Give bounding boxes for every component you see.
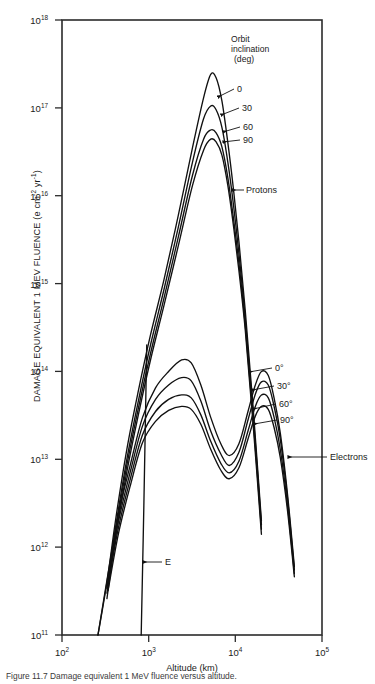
- electron-label-30: 30°: [277, 381, 291, 391]
- x-tick-mantissa: 10: [315, 647, 326, 658]
- curve-electrons-90-deg: [108, 406, 294, 591]
- electron-label-0: 0°: [275, 363, 284, 373]
- figure-caption: Figure 11.7 Damage equivalent 1 MeV flue…: [6, 671, 370, 681]
- proton-label-90: 90: [243, 135, 253, 145]
- data-curves: [98, 73, 294, 635]
- e-marker-label: E: [165, 557, 171, 567]
- y-tick-exponent: 12: [41, 541, 49, 548]
- electrons-annotation: Electrons: [288, 452, 368, 462]
- svg-text:1018: 1018: [30, 14, 48, 26]
- svg-text:103: 103: [142, 646, 157, 658]
- x-tick-exponent: 5: [326, 646, 330, 653]
- x-tick-mantissa: 10: [142, 647, 153, 658]
- electron-label-60: 60°: [279, 399, 293, 409]
- x-axis-ticks: [62, 635, 322, 642]
- y-tick-exponent: 13: [41, 453, 49, 460]
- figure-container: 1018 1017 1016 1015 1014 1013 1012 1011: [0, 0, 375, 684]
- svg-text:104: 104: [228, 646, 243, 658]
- y-tick-mantissa: 10: [30, 454, 41, 465]
- protons-label: Protons: [246, 185, 278, 195]
- legend-line-2: inclination: [231, 44, 269, 54]
- y-axis-title-exp2: -1: [30, 173, 37, 179]
- y-tick-exponent: 15: [41, 278, 49, 285]
- proton-label-30: 30: [242, 103, 252, 113]
- svg-text:1012: 1012: [30, 541, 48, 553]
- y-axis-title-mid: yr: [32, 179, 42, 190]
- y-tick-mantissa: 10: [31, 630, 42, 641]
- svg-text:105: 105: [315, 646, 330, 658]
- y-axis-ticks: [55, 20, 62, 635]
- y-tick-mantissa: 10: [30, 103, 41, 114]
- e-marker-annotation: E: [143, 557, 171, 567]
- y-tick-mantissa: 10: [30, 542, 41, 553]
- chart-svg: 1018 1017 1016 1015 1014 1013 1012 1011: [0, 0, 375, 684]
- proton-label-0: 0: [237, 84, 242, 94]
- y-axis-title: DAMAGE EQUIVALENT 1 MEV FLUENCE (e cm-2 …: [30, 156, 42, 416]
- y-tick-exponent: 18: [41, 14, 49, 21]
- curve-protons-90-deg: [107, 139, 261, 599]
- x-tick-mantissa: 10: [55, 647, 66, 658]
- proton-label-60: 60: [243, 122, 253, 132]
- protons-annotation: Protons: [232, 185, 278, 195]
- y-tick-mantissa: 10: [30, 15, 41, 26]
- svg-text:1011: 1011: [31, 629, 49, 641]
- x-tick-exponent: 4: [239, 646, 243, 653]
- legend-line-1: Orbit: [231, 34, 250, 44]
- y-tick-exponent: 16: [41, 190, 49, 197]
- svg-text:1017: 1017: [30, 102, 48, 114]
- svg-text:1013: 1013: [30, 453, 48, 465]
- x-tick-exponent: 3: [152, 646, 156, 653]
- x-tick-mantissa: 10: [228, 647, 239, 658]
- curve-protons-0-deg: [98, 73, 261, 635]
- y-axis-title-end: ): [32, 170, 42, 173]
- y-tick-exponent: 17: [41, 102, 49, 109]
- svg-text:102: 102: [55, 646, 70, 658]
- electron-label-90: 90°: [280, 415, 294, 425]
- y-axis-title-exp1: -2: [30, 190, 37, 196]
- y-axis-title-main: DAMAGE EQUIVALENT 1 MEV FLUENCE (e cm: [32, 196, 42, 402]
- x-tick-labels: 102 103 104 105: [55, 646, 330, 658]
- x-tick-exponent: 2: [66, 646, 70, 653]
- curve-protons-30-deg: [107, 105, 261, 588]
- legend-line-3: (deg): [234, 54, 254, 64]
- legend-title: Orbit inclination (deg): [231, 34, 269, 64]
- y-tick-exponent: 14: [41, 365, 49, 372]
- plot-frame: [62, 20, 322, 635]
- y-tick-exponent: 11: [41, 629, 48, 636]
- electrons-label: Electrons: [330, 452, 368, 462]
